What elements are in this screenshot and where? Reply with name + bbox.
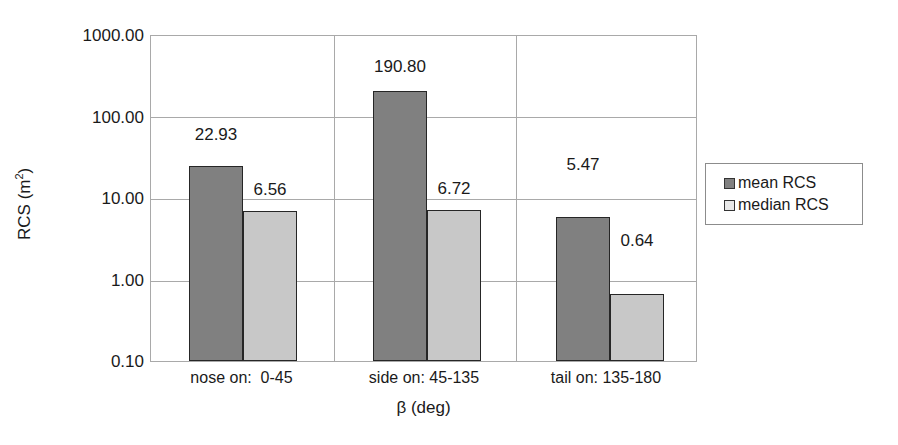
- bar-label-median-side-on: 6.72: [421, 180, 487, 197]
- y-tick-label-1: 1.00: [4, 272, 144, 289]
- legend-label-mean: mean RCS: [738, 175, 816, 191]
- y-tick-label-1000: 1000.00: [4, 27, 144, 44]
- legend-item-median-rcs: median RCS: [724, 194, 862, 216]
- category-separator-1: [334, 36, 335, 361]
- y-axis-title-exponent: 2: [13, 173, 25, 179]
- x-tick-label-tail-on: tail on: 135-180: [515, 369, 697, 387]
- legend-swatch-icon-mean: [724, 178, 735, 189]
- x-tick-label-side-on: side on: 45-135: [333, 369, 515, 387]
- rcs-bar-chart: 1000.00 100.00 10.00 1.00 0.10 RCS (m2) …: [0, 0, 898, 445]
- y-axis-title-base: RCS (m: [15, 180, 34, 240]
- x-axis-title: β (deg): [150, 398, 697, 418]
- y-tick-label-0-1: 0.10: [4, 353, 144, 370]
- plot-area: 22.93 6.56 190.80 6.72 5.47 0.64: [150, 35, 697, 362]
- y-axis-title-close: ): [15, 168, 34, 174]
- bar-mean-tail-on: [556, 217, 610, 361]
- bar-median-tail-on: [610, 294, 664, 361]
- bar-label-median-tail-on: 0.64: [603, 232, 671, 249]
- bar-label-mean-side-on: 190.80: [363, 58, 437, 75]
- bar-median-side-on: [427, 210, 481, 361]
- y-tick-label-100: 100.00: [4, 109, 144, 126]
- x-tick-label-nose-on: nose on: 0-45: [150, 369, 333, 387]
- legend-label-median: median RCS: [738, 197, 829, 213]
- y-axis-title: RCS (m2): [13, 134, 35, 274]
- bar-label-mean-tail-on: 5.47: [549, 156, 617, 173]
- bar-mean-nose-on: [189, 166, 243, 361]
- bar-median-nose-on: [243, 211, 297, 361]
- bar-label-median-nose-on: 6.56: [237, 181, 303, 198]
- bar-label-mean-nose-on: 22.93: [179, 126, 253, 143]
- legend-item-mean-rcs: mean RCS: [724, 172, 862, 194]
- bar-mean-side-on: [373, 91, 427, 361]
- legend-swatch-icon-median: [724, 200, 735, 211]
- category-separator-2: [516, 36, 517, 361]
- legend: mean RCS median RCS: [705, 163, 863, 225]
